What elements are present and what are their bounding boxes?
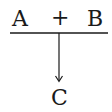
product-c-label: C <box>51 87 68 109</box>
